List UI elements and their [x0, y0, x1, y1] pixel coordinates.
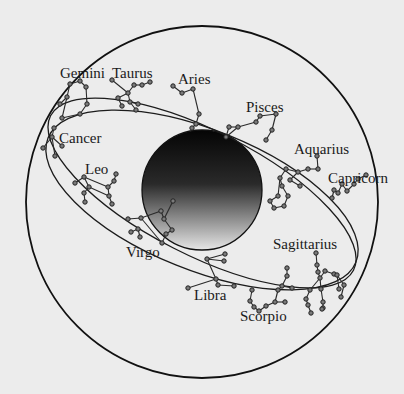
star-icon	[288, 178, 292, 182]
star-icon	[87, 185, 91, 189]
star-icon	[222, 259, 226, 263]
star-icon	[316, 270, 320, 274]
star-icon	[254, 120, 258, 124]
star-icon	[110, 202, 114, 206]
star-icon	[332, 188, 336, 192]
star-icon	[336, 191, 340, 195]
star-icon	[276, 288, 280, 292]
star-icon	[128, 100, 132, 104]
star-icon	[318, 276, 322, 280]
star-icon	[284, 167, 288, 171]
star-icon	[73, 181, 77, 185]
star-icon	[162, 217, 166, 221]
star-icon	[268, 199, 272, 203]
star-icon	[134, 108, 138, 112]
star-icon	[140, 83, 144, 87]
star-icon	[85, 102, 89, 106]
star-icon	[278, 176, 282, 180]
star-icon	[323, 269, 327, 273]
star-icon	[160, 241, 164, 245]
star-icon	[290, 286, 294, 290]
star-icon	[264, 138, 268, 142]
star-icon	[116, 96, 120, 100]
label-taurus: Taurus	[112, 65, 153, 81]
star-icon	[68, 82, 72, 86]
star-icon	[337, 287, 341, 291]
star-icon	[282, 204, 286, 208]
star-icon	[285, 266, 289, 270]
label-virgo: Virgo	[126, 244, 160, 260]
star-icon	[65, 95, 69, 99]
star-icon	[139, 216, 143, 220]
label-sagittarius: Sagittarius	[273, 236, 337, 252]
star-icon	[223, 252, 227, 256]
label-libra: Libra	[194, 287, 227, 303]
star-icon	[171, 84, 175, 88]
star-icon	[283, 300, 287, 304]
star-icon	[41, 146, 45, 150]
star-icon	[342, 283, 346, 287]
label-aries: Aries	[178, 71, 211, 87]
central-sphere	[142, 130, 262, 250]
star-icon	[106, 185, 110, 189]
star-icon	[306, 303, 310, 307]
label-cancer: Cancer	[59, 130, 101, 146]
star-icon	[339, 295, 343, 299]
star-icon	[335, 273, 339, 277]
star-icon	[315, 263, 319, 267]
star-icon	[273, 300, 277, 304]
star-icon	[136, 102, 140, 106]
star-icon	[236, 125, 240, 129]
star-icon	[190, 126, 194, 130]
star-icon	[171, 199, 175, 203]
star-icon	[120, 104, 124, 108]
star-icon	[270, 128, 274, 132]
star-icon	[248, 299, 252, 303]
label-aquarius: Aquarius	[294, 141, 349, 157]
star-icon	[197, 112, 201, 116]
constellation-gemini	[58, 79, 89, 120]
star-icon	[82, 191, 86, 195]
star-icon	[205, 257, 209, 261]
star-icon	[136, 227, 140, 231]
star-icon	[321, 300, 325, 304]
star-icon	[309, 311, 313, 315]
star-icon	[129, 230, 133, 234]
star-icon	[308, 288, 312, 292]
star-icon	[83, 200, 87, 204]
star-icon	[319, 287, 323, 291]
constellation-taurus	[110, 78, 152, 112]
star-icon	[126, 91, 130, 95]
star-icon	[60, 116, 64, 120]
star-icon	[170, 228, 174, 232]
star-icon	[180, 91, 184, 95]
star-icon	[272, 206, 276, 210]
star-icon	[53, 154, 57, 158]
star-icon	[78, 112, 82, 116]
star-icon	[330, 196, 334, 200]
constellation-aries	[171, 84, 201, 130]
star-icon	[285, 274, 289, 278]
star-icon	[280, 184, 284, 188]
star-icon	[276, 194, 280, 198]
label-capricorn: Capricorn	[328, 170, 388, 186]
label-gemini: Gemini	[60, 65, 105, 81]
star-icon	[112, 179, 116, 183]
label-leo: Leo	[85, 161, 108, 177]
star-icon	[345, 189, 349, 193]
star-icon	[298, 184, 302, 188]
star-icon	[304, 297, 308, 301]
diagram-canvas: GeminiTaurusAriesPiscesAquariusCapricorn…	[0, 0, 404, 394]
star-icon	[84, 85, 88, 89]
star-icon	[52, 126, 56, 130]
star-icon	[126, 217, 130, 221]
star-icon	[159, 209, 163, 213]
star-icon	[186, 286, 190, 290]
star-icon	[232, 284, 236, 288]
star-icon	[224, 135, 228, 139]
label-scorpio: Scorpio	[240, 308, 287, 324]
star-icon	[296, 170, 300, 174]
star-icon	[320, 307, 324, 311]
star-icon	[191, 87, 195, 91]
star-icon	[227, 125, 231, 129]
